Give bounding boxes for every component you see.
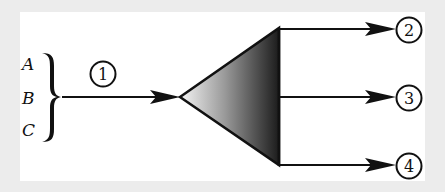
input-label-b: B: [21, 88, 35, 108]
node-1-label: 1: [98, 65, 108, 84]
splitter-triangle: [180, 28, 279, 165]
splitter-diagram: A B C 1 2 3 4: [0, 0, 445, 192]
input-label-c: C: [22, 120, 35, 140]
input-label-a: A: [20, 54, 34, 74]
node-3-label: 3: [404, 89, 414, 108]
node-2-label: 2: [404, 21, 414, 40]
curly-brace-icon: [42, 53, 61, 142]
node-4-label: 4: [404, 157, 414, 176]
